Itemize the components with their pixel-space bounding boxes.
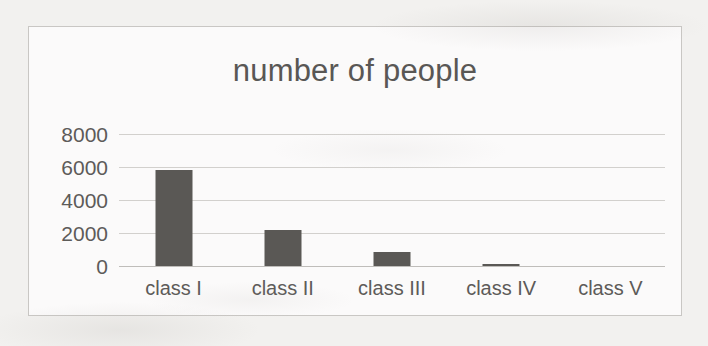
bars-group: class Iclass IIclass IIIclass IVclass V [119,134,665,266]
bar-1[interactable] [155,170,192,266]
bar-slot: class III [337,134,446,266]
y-tick-label-0: 0 [96,256,108,277]
y-tick-label-6000: 6000 [61,157,108,178]
bar-slot: class IV [447,134,556,266]
bar-3[interactable] [373,252,410,266]
chart-container: number of people 02000400060008000 class… [28,26,682,316]
x-tick-label-3: class III [358,278,426,298]
bar-slot: class II [228,134,337,266]
x-tick-label-1: class I [145,278,202,298]
y-tick-label-2000: 2000 [61,223,108,244]
y-tick-label-4000: 4000 [61,190,108,211]
chart-title: number of people [29,53,681,89]
bar-2[interactable] [264,230,301,266]
bar-slot: class I [119,134,228,266]
bar-4[interactable] [483,264,520,266]
y-tick-label-8000: 8000 [61,124,108,145]
bar-slot: class V [556,134,665,266]
gridline-0 [119,266,665,267]
plot-area: 02000400060008000 class Iclass IIclass I… [119,134,665,266]
x-tick-label-5: class V [578,278,642,298]
x-tick-label-4: class IV [466,278,536,298]
x-tick-label-2: class II [252,278,314,298]
